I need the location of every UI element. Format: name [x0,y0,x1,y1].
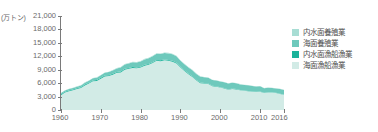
y-tick-label: 3,000 [1,93,56,101]
x-tick-label: 1980 [131,113,148,122]
legend-swatch-icon [292,62,299,69]
y-tick-mark [58,83,62,84]
chart-legend: 内水面養殖業海面養殖業内水面漁船漁業海面漁船漁業 [292,29,352,70]
y-tick-label: 9,000 [1,66,56,74]
legend-item-label: 海面漁船漁業 [303,62,345,70]
legend-item: 海面養殖業 [292,40,352,48]
legend-item-label: 内水面養殖業 [303,29,345,37]
y-tick-label: 6,000 [1,79,56,87]
legend-item: 内水面漁船漁業 [292,51,352,59]
legend-item-label: 海面養殖業 [303,40,338,48]
area-series [61,60,284,110]
y-tick-mark [58,70,62,71]
y-tick-mark [58,16,62,17]
y-tick-mark [58,56,62,57]
y-axis-tick-labels: 03,0006,0009,00012,00015,00018,00021,000 [0,0,56,132]
y-tick-label: 0 [1,106,56,114]
legend-item: 海面漁船漁業 [292,62,352,70]
legend-swatch-icon [292,51,299,58]
x-tick-label: 1970 [91,113,108,122]
fishery-production-area-chart: (万トン) 03,0006,0009,00012,00015,00018,000… [0,0,378,132]
stacked-area-svg [61,16,284,110]
x-tick-label: 2000 [211,113,228,122]
y-tick-label: 12,000 [1,52,56,60]
y-tick-mark [58,97,62,98]
y-tick-label: 18,000 [1,25,56,33]
y-tick-label: 21,000 [1,12,56,20]
y-tick-mark [58,29,62,30]
legend-item-label: 内水面漁船漁業 [303,51,352,59]
x-tick-label: 2010 [251,113,268,122]
x-tick-label: 1990 [171,113,188,122]
y-tick-mark [58,43,62,44]
x-tick-label: 1960 [52,113,69,122]
legend-swatch-icon [292,40,299,47]
y-tick-label: 15,000 [1,39,56,47]
legend-swatch-icon [292,29,299,36]
plot-area [60,16,283,110]
legend-item: 内水面養殖業 [292,29,352,37]
x-tick-label: 2016 [271,113,288,122]
